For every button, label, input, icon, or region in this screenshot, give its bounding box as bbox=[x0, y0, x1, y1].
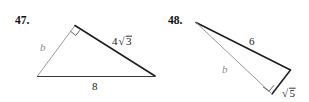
right-angle-mark-48 bbox=[263, 85, 274, 91]
problem-number-47: 47. bbox=[15, 14, 30, 26]
triangle-47-leg-known-edge bbox=[75, 26, 155, 77]
triangle-47-label-4root3-radical-sign: √ bbox=[119, 35, 126, 47]
triangle-47-label-8: 8 bbox=[92, 80, 98, 92]
triangle-48-label-root5-radicand: 5 bbox=[290, 87, 296, 99]
triangle-47-label-4root3-coefficient: 4 bbox=[112, 35, 118, 47]
exercise-47-figure: 47. b 4 √ 3 8 bbox=[15, 14, 155, 92]
figures-canvas: 47. b 4 √ 3 8 48. bbox=[0, 0, 309, 102]
right-angle-mark-47 bbox=[71, 30, 80, 35]
triangle-48-label-6: 6 bbox=[249, 35, 255, 47]
triangle-47-label-4root3-radicand: 3 bbox=[126, 35, 132, 47]
geometry-figure-sheet: 47. b 4 √ 3 8 48. bbox=[0, 0, 309, 102]
triangle-47-label-4root3: 4 √ 3 bbox=[112, 35, 132, 47]
triangle-48-leg-b-edge bbox=[196, 23, 272, 95]
triangle-48-label-b: b bbox=[222, 63, 228, 75]
problem-number-48: 48. bbox=[168, 14, 183, 26]
triangle-48-label-root5: √ 5 bbox=[282, 87, 296, 99]
exercise-48-figure: 48. 6 b √ 5 bbox=[168, 14, 296, 99]
triangle-48-hypotenuse-edge bbox=[196, 23, 291, 71]
triangle-47-label-b: b bbox=[40, 41, 46, 53]
triangle-48-label-root5-radical-sign: √ bbox=[282, 87, 289, 99]
